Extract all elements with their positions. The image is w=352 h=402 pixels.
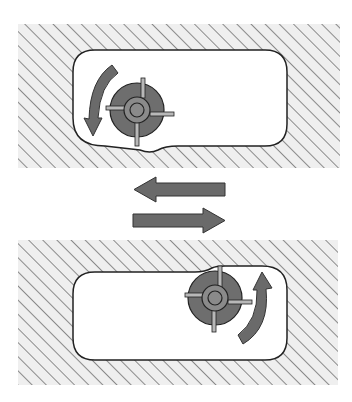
pocket-top	[73, 50, 287, 152]
feed-arrow-right-icon	[133, 208, 225, 233]
cutter-tooth	[228, 300, 252, 304]
cutter-tooth	[106, 106, 126, 110]
cutter-tooth	[212, 310, 216, 332]
top-panel	[18, 24, 340, 168]
feed-arrows	[133, 177, 225, 233]
cutter-tooth	[141, 78, 145, 98]
feed-arrow-left-icon	[134, 177, 225, 202]
cutter-tooth	[218, 266, 222, 288]
bottom-panel	[18, 240, 338, 385]
cutter-tooth	[150, 112, 174, 116]
milling-diagram	[0, 0, 352, 402]
cutter-tooth	[135, 122, 139, 146]
